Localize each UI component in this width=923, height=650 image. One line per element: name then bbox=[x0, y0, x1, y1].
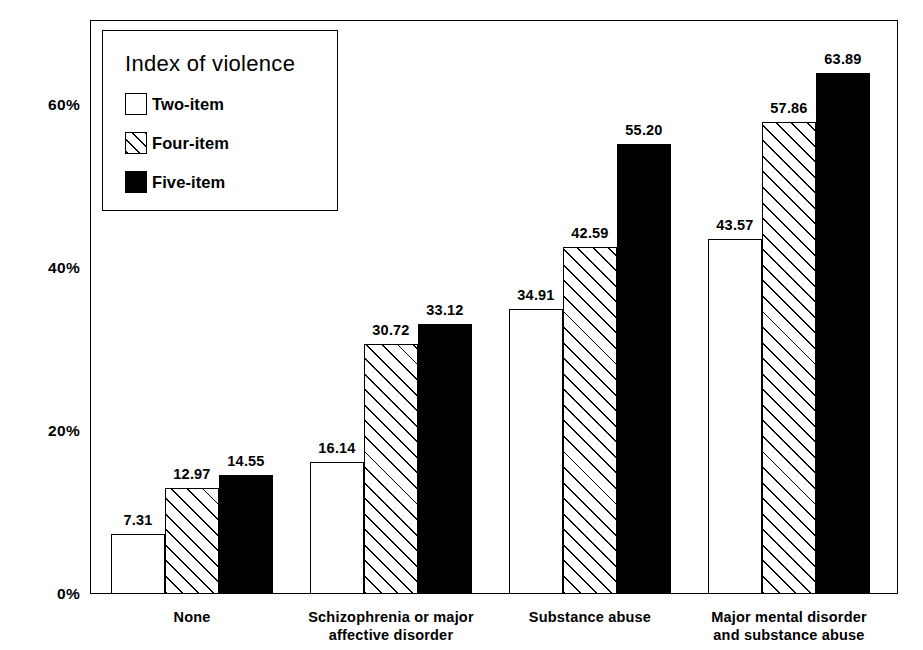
y-tick-label: 60% bbox=[24, 96, 80, 114]
legend-item-two-item[interactable]: Two-item bbox=[125, 93, 224, 115]
legend-item-label: Two-item bbox=[152, 95, 224, 114]
bar-value-label: 33.12 bbox=[426, 302, 463, 318]
category-label: Substance abuse bbox=[480, 608, 700, 626]
bar-value-label: 7.31 bbox=[123, 512, 152, 528]
white-square-icon bbox=[125, 93, 147, 115]
bar-two-item-group-4[interactable] bbox=[708, 239, 762, 594]
bar-value-label: 14.55 bbox=[227, 453, 264, 469]
bar-two-item-group-1[interactable] bbox=[111, 534, 165, 594]
bar-two-item-group-3[interactable] bbox=[509, 309, 563, 594]
bar-four-item-group-3[interactable] bbox=[563, 247, 617, 594]
bar-value-label: 42.59 bbox=[571, 225, 608, 241]
bar-four-item-group-1[interactable] bbox=[165, 488, 219, 594]
bar-value-label: 55.20 bbox=[625, 122, 662, 138]
bar-value-label: 30.72 bbox=[372, 322, 409, 338]
category-label: None bbox=[82, 608, 302, 626]
bar-chart: Percent violent 60%40%20%0% 7.3112.9714.… bbox=[0, 0, 923, 650]
legend-item-four-item[interactable]: Four-item bbox=[125, 132, 229, 154]
hatched-square-icon bbox=[125, 132, 147, 154]
bar-two-item-group-2[interactable] bbox=[310, 462, 364, 594]
legend-item-label: Four-item bbox=[152, 134, 229, 153]
bar-value-label: 63.89 bbox=[824, 51, 861, 67]
legend-title: Index of violence bbox=[125, 51, 295, 77]
category-label: Major mental disorder and substance abus… bbox=[679, 608, 899, 644]
bar-value-label: 34.91 bbox=[517, 287, 554, 303]
bar-value-label: 16.14 bbox=[318, 440, 355, 456]
bar-five-item-group-4[interactable] bbox=[816, 73, 870, 594]
category-label: Schizophrenia or major affective disorde… bbox=[281, 608, 501, 644]
black-square-icon bbox=[125, 171, 147, 193]
bar-four-item-group-4[interactable] bbox=[762, 122, 816, 594]
bar-five-item-group-1[interactable] bbox=[219, 475, 273, 594]
bar-five-item-group-2[interactable] bbox=[418, 324, 472, 594]
y-tick-label: 0% bbox=[24, 585, 80, 603]
legend: Index of violence Two-itemFour-itemFive-… bbox=[102, 30, 338, 211]
legend-item-five-item[interactable]: Five-item bbox=[125, 171, 225, 193]
y-tick-label: 20% bbox=[24, 422, 80, 440]
bar-value-label: 12.97 bbox=[173, 466, 210, 482]
bar-four-item-group-2[interactable] bbox=[364, 344, 418, 594]
bar-value-label: 57.86 bbox=[770, 100, 807, 116]
bar-five-item-group-3[interactable] bbox=[617, 144, 671, 594]
bar-value-label: 43.57 bbox=[716, 217, 753, 233]
y-tick-label: 40% bbox=[24, 259, 80, 277]
legend-item-label: Five-item bbox=[152, 173, 225, 192]
